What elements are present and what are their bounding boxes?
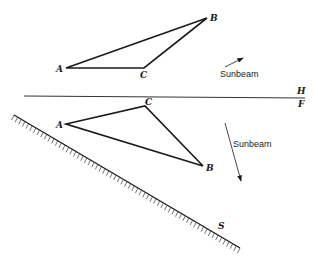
top-label-a: A — [55, 64, 63, 74]
label-f: F — [297, 99, 305, 109]
label-h: H — [296, 86, 306, 96]
top-sunbeam-arrow — [225, 58, 243, 67]
front-view: A B C Sunbeam — [55, 97, 272, 181]
top-sunbeam-label: Sunbeam — [220, 69, 259, 79]
top-label-b: B — [209, 13, 218, 23]
top-label-c: C — [140, 70, 148, 80]
plane-s-hatching — [12, 115, 241, 253]
front-label-a: A — [55, 120, 63, 130]
plane-label-s: S — [218, 221, 225, 231]
diagram-canvas: A B C Sunbeam H F A B C Sunbeam S — [0, 0, 318, 264]
reference-line-group: H F — [24, 86, 306, 109]
front-label-b: B — [205, 163, 214, 173]
reference-line — [24, 96, 305, 98]
front-sunbeam-label: Sunbeam — [233, 139, 272, 149]
plane-s: S — [12, 115, 241, 253]
top-view-triangle — [66, 18, 207, 68]
front-label-c: C — [145, 97, 153, 107]
front-sunbeam-arrow — [225, 123, 241, 181]
top-view: A B C Sunbeam — [55, 13, 259, 80]
